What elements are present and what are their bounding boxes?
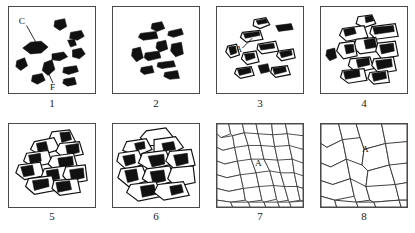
panel-2[interactable] [112,6,200,94]
coarse-grain-network [321,124,407,207]
label-a: A [236,44,243,54]
panel-number-3: 3 [216,97,304,109]
label-a: A [255,158,262,168]
label-a: A [362,144,369,154]
label-c: C [19,16,25,26]
panel-8[interactable]: A [320,123,408,208]
panel-4[interactable] [320,6,408,94]
sintered-mass-group [117,128,195,201]
panel-number-8: 8 [320,210,408,222]
panel-8-graphic: A [321,124,407,207]
deformed-particles-group [326,15,398,84]
particles-group [132,22,184,80]
panel-number-6: 6 [112,210,200,222]
panel-5-graphic [9,124,95,207]
panel-7-graphic: A [217,124,303,207]
panel-1[interactable]: C F [8,6,96,94]
panel-number-2: 2 [112,97,200,109]
particles-group [16,19,85,86]
panel-3[interactable]: A [216,6,304,94]
panel-number-1: 1 [8,97,96,109]
label-f: F [50,82,55,92]
panel-1-graphic: C F [9,7,95,93]
panel-number-7: 7 [216,210,304,222]
panel-2-graphic [113,7,199,93]
panel-6-graphic [113,124,199,207]
panel-5[interactable] [8,123,96,208]
label-c-group: C [19,16,37,44]
panel-number-5: 5 [8,210,96,222]
figure-root: C F 1 [0,0,415,233]
compacted-cluster-group [16,130,87,195]
panel-6[interactable] [112,123,200,208]
panel-3-graphic: A [217,7,303,93]
panel-number-4: 4 [320,97,408,109]
panel-7[interactable]: A [216,123,304,208]
panel-4-graphic [321,7,407,93]
